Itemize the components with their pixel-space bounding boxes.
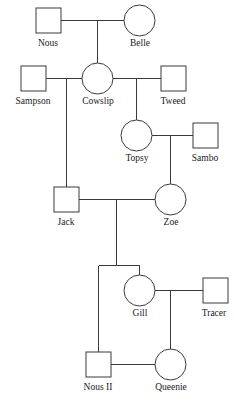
individual-labels-layer: NousBelleSampsonCowslipTweedTopsySamboJa… bbox=[16, 38, 227, 392]
node-label-queenie: Queenie bbox=[155, 382, 187, 392]
pedigree-diagram: NousBelleSampsonCowslipTweedTopsySamboJa… bbox=[0, 0, 234, 401]
node-label-sampson: Sampson bbox=[16, 96, 51, 106]
pedigree-node-queenie[interactable] bbox=[155, 349, 186, 380]
pedigree-node-sambo[interactable] bbox=[193, 123, 218, 148]
node-label-gill: Gill bbox=[133, 308, 148, 318]
node-label-tweed: Tweed bbox=[160, 96, 185, 106]
individual-nodes-layer bbox=[21, 5, 228, 380]
node-label-topsy: Topsy bbox=[125, 153, 148, 163]
node-label-belle: Belle bbox=[130, 38, 150, 48]
pedigree-node-cowslip[interactable] bbox=[82, 63, 113, 94]
pedigree-node-belle[interactable] bbox=[124, 5, 155, 36]
pedigree-node-topsy[interactable] bbox=[121, 120, 152, 151]
pedigree-node-jack[interactable] bbox=[54, 187, 79, 212]
node-label-nous: Nous bbox=[38, 38, 58, 48]
pedigree-node-gill[interactable] bbox=[124, 275, 155, 306]
pedigree-node-tweed[interactable] bbox=[161, 66, 186, 91]
pedigree-node-tracer[interactable] bbox=[203, 278, 228, 303]
pedigree-node-nous[interactable] bbox=[36, 8, 61, 33]
node-label-cowslip: Cowslip bbox=[82, 96, 114, 106]
pedigree-node-sampson[interactable] bbox=[21, 66, 46, 91]
node-label-jack: Jack bbox=[58, 217, 75, 227]
node-label-zoe: Zoe bbox=[164, 217, 179, 227]
node-label-nous-ii: Nous II bbox=[84, 382, 113, 392]
pedigree-node-zoe[interactable] bbox=[155, 184, 186, 215]
pedigree-node-nous-ii[interactable] bbox=[86, 352, 111, 377]
node-label-sambo: Sambo bbox=[192, 153, 219, 163]
node-label-tracer: Tracer bbox=[202, 308, 227, 318]
pedigree-canvas: NousBelleSampsonCowslipTweedTopsySamboJa… bbox=[0, 0, 234, 401]
